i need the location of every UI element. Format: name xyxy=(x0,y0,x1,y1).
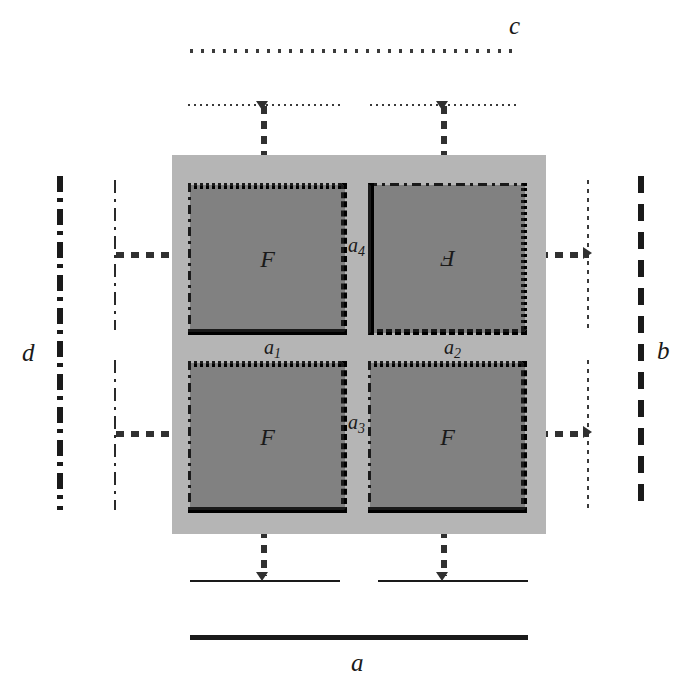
boundary-line-d xyxy=(57,176,63,510)
label-a1-base: a xyxy=(264,336,274,358)
arrow-right-right-upper-icon xyxy=(583,247,592,259)
square-bottom-left: F xyxy=(190,363,345,511)
arrow-down-bottom-left-icon xyxy=(256,572,268,581)
arrow-right-right-lower-icon xyxy=(583,426,592,438)
label-b: b xyxy=(657,338,670,363)
label-a2: a2 xyxy=(444,337,461,361)
label-a2-subscript: 2 xyxy=(454,346,461,361)
inner-line-bottom-right xyxy=(378,580,528,582)
boundary-line-c xyxy=(190,49,520,53)
square-letter-F: F xyxy=(440,425,455,449)
edge-top-dotted xyxy=(188,361,347,367)
figure-canvas: c d b a F xyxy=(0,0,679,685)
label-d: d xyxy=(22,340,35,365)
edge-bottom-solid xyxy=(188,329,347,335)
edge-top-dashdot xyxy=(368,183,527,186)
arrow-down-top-left-icon xyxy=(256,101,268,110)
boundary-line-b xyxy=(638,176,644,510)
edge-left-dashdot xyxy=(368,361,371,513)
label-a4: a4 xyxy=(348,235,365,259)
square-letter-F: F xyxy=(260,425,275,449)
label-a3-base: a xyxy=(348,411,358,433)
label-a1: a1 xyxy=(264,337,281,361)
edge-bottom-solid xyxy=(368,507,527,513)
label-c: c xyxy=(509,13,520,38)
arrow-down-top-right-icon xyxy=(436,101,448,110)
square-top-left: F xyxy=(190,185,345,333)
edge-bottom-solid xyxy=(188,507,347,513)
edge-bottom-dashed xyxy=(368,329,527,335)
edge-left-solid xyxy=(368,183,374,335)
edge-right-dotted xyxy=(521,183,527,335)
label-a: a xyxy=(351,650,364,675)
label-a3: a3 xyxy=(348,412,365,436)
edge-right-dashed xyxy=(341,183,347,335)
edge-right-dashed xyxy=(341,361,347,513)
boundary-line-a xyxy=(190,635,528,640)
edge-left-dashdot xyxy=(188,361,191,513)
label-a1-subscript: 1 xyxy=(274,346,281,361)
square-top-right: F xyxy=(370,185,525,333)
edge-top-dotted xyxy=(368,361,527,367)
label-a2-base: a xyxy=(444,336,454,358)
label-a4-subscript: 4 xyxy=(358,244,365,259)
arrow-down-bottom-right-icon xyxy=(436,572,448,581)
edge-left-dashdot xyxy=(188,183,191,335)
label-a3-subscript: 3 xyxy=(358,421,365,436)
edge-top-dotted xyxy=(188,183,347,189)
square-bottom-right: F xyxy=(370,363,525,511)
square-letter-F: F xyxy=(260,247,275,271)
gray-panel: F F F F a4 a3 a xyxy=(172,155,546,534)
label-a4-base: a xyxy=(348,234,358,256)
square-letter-F: F xyxy=(440,247,455,271)
edge-right-dashed xyxy=(521,361,527,513)
